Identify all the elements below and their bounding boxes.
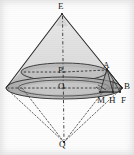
vertex-label-A: A <box>103 61 110 70</box>
vertex-label-O: O <box>58 82 65 91</box>
vertex-label-H: H <box>109 96 116 105</box>
dot-P <box>63 71 65 73</box>
vertex-label-F: F <box>121 96 126 105</box>
geometry-figure: E P A O B M H F Q <box>0 0 134 155</box>
vertex-label-P: P <box>58 66 63 75</box>
geometry-diagram-canvas <box>0 0 134 155</box>
vertex-label-E: E <box>58 2 64 11</box>
dot-H <box>112 91 114 93</box>
dot-M <box>99 91 101 93</box>
vertex-label-M: M <box>97 96 105 105</box>
dot-E <box>61 13 63 15</box>
vertex-label-Q: Q <box>59 140 66 149</box>
dot-F <box>119 91 121 93</box>
dot-B <box>121 87 123 89</box>
vertex-label-B: B <box>124 82 130 91</box>
